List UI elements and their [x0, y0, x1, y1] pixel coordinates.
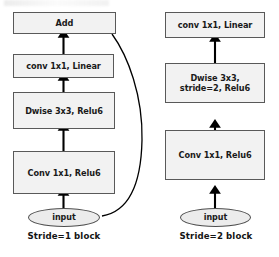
node-add[interactable]: Add: [13, 12, 116, 34]
node-input-stride1[interactable]: input: [28, 208, 100, 227]
caption-stride2-block: Stride=2 block: [152, 231, 279, 241]
node-conv-1x1-relu6-stride1-label: Conv 1x1, Relu6: [28, 168, 101, 178]
node-add-label: Add: [56, 18, 74, 28]
node-conv-1x1-linear-stride1-label: conv 1x1, Linear: [26, 61, 101, 71]
node-conv-1x1-relu6-stride1[interactable]: Conv 1x1, Relu6: [13, 151, 115, 194]
node-dwise-3x3-stride1[interactable]: Dwise 3x3, Relu6: [13, 92, 115, 129]
node-conv-1x1-relu6-stride2-label: Conv 1x1, Relu6: [179, 150, 252, 160]
node-dwise-3x3-stride2[interactable]: Dwise 3x3, stride=2, Relu6: [165, 63, 265, 103]
block-diagram-figure: Add conv 1x1, Linear Dwise 3x3, Relu6 Co…: [0, 0, 279, 257]
node-dwise-3x3-stride2-label-line1: Dwise 3x3,: [190, 73, 239, 83]
node-conv-1x1-linear-stride2[interactable]: conv 1x1, Linear: [165, 12, 265, 38]
node-conv-1x1-linear-stride1[interactable]: conv 1x1, Linear: [13, 54, 114, 78]
node-dwise-3x3-stride2-label-line2: stride=2, Relu6: [180, 83, 250, 93]
node-input-stride1-label: input: [52, 213, 76, 222]
node-conv-1x1-linear-stride2-label: conv 1x1, Linear: [178, 20, 253, 30]
caption-stride1-block: Stride=1 block: [0, 231, 128, 241]
node-input-stride2-label: input: [204, 213, 228, 222]
node-conv-1x1-relu6-stride2[interactable]: Conv 1x1, Relu6: [165, 130, 265, 180]
node-dwise-3x3-stride1-label: Dwise 3x3, Relu6: [25, 106, 103, 116]
node-input-stride2[interactable]: input: [180, 208, 251, 227]
